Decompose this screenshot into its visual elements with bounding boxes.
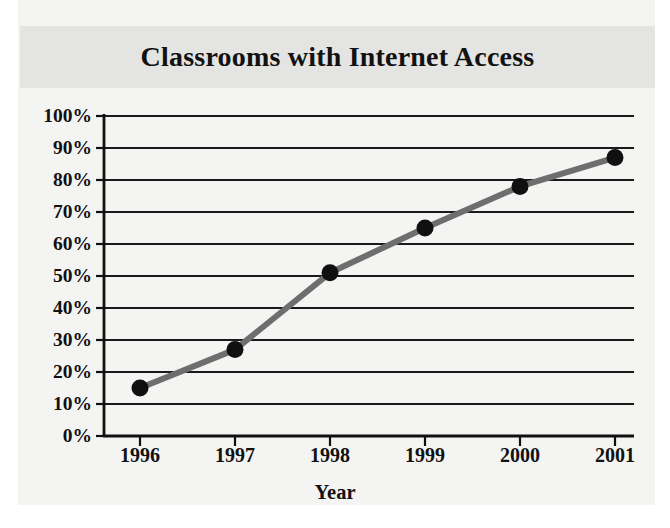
y-tick-marks	[96, 116, 103, 436]
data-point-1996	[132, 380, 149, 397]
plot-area: 100% 90% 80% 70% 60% 50% 40% 30% 20% 10%…	[0, 0, 670, 528]
data-point-2000	[512, 178, 529, 195]
data-point-2001	[607, 149, 624, 166]
data-point-1998	[322, 264, 339, 281]
gridlines	[103, 116, 634, 404]
x-tick-marks	[140, 436, 615, 446]
data-point-1997	[227, 341, 244, 358]
chart-canvas	[0, 0, 670, 528]
chart-page: Classrooms with Internet Access 100% 90%…	[0, 0, 670, 528]
data-line-series-1	[140, 158, 615, 388]
data-point-1999	[417, 220, 434, 237]
